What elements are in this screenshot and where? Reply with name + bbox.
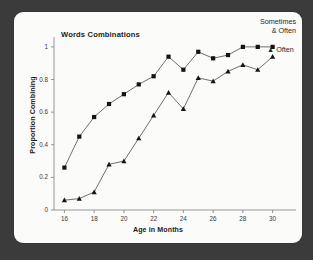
data-point-square [77, 135, 81, 139]
x-tick-label: 18 [84, 215, 104, 222]
data-point-triangle [151, 113, 156, 118]
plot-area [14, 12, 302, 243]
data-point-square [92, 115, 96, 119]
y-tick-label: 0.2 [28, 173, 48, 180]
data-point-square [137, 82, 141, 86]
x-tick-label: 30 [263, 215, 283, 222]
data-point-square [166, 55, 170, 59]
data-point-triangle [240, 62, 245, 67]
data-point-triangle [196, 75, 201, 80]
data-point-square [226, 53, 230, 57]
y-tick-label: 0.8 [28, 76, 48, 83]
series-2 [62, 54, 275, 202]
data-point-triangle [166, 90, 171, 95]
screenshot-root: Words Combinations Sometimes & Often ▲ O… [0, 0, 313, 260]
data-point-square [256, 45, 260, 49]
series-line-2 [64, 57, 272, 201]
data-point-square [122, 92, 126, 96]
chart-panel: Words Combinations Sometimes & Often ▲ O… [14, 12, 302, 243]
data-point-triangle [77, 196, 82, 201]
data-point-triangle [136, 136, 141, 141]
data-point-triangle [92, 189, 97, 194]
data-point-square [152, 74, 156, 78]
y-tick-label: 0.6 [28, 108, 48, 115]
data-point-square [241, 45, 245, 49]
x-tick-label: 22 [144, 215, 164, 222]
x-tick-label: 20 [114, 215, 134, 222]
x-tick-label: 16 [54, 215, 74, 222]
x-tick-label: 24 [173, 215, 193, 222]
data-point-square [196, 50, 200, 54]
y-tick-label: 1 [28, 43, 48, 50]
data-point-square [211, 56, 215, 60]
x-tick-label: 26 [203, 215, 223, 222]
data-point-square [271, 45, 275, 49]
data-point-triangle [270, 54, 275, 59]
y-tick-label: 0 [28, 206, 48, 213]
data-point-triangle [225, 69, 230, 74]
data-point-triangle [121, 158, 126, 163]
y-tick-label: 0.4 [28, 141, 48, 148]
data-point-square [107, 102, 111, 106]
data-point-square [62, 165, 66, 169]
data-point-square [181, 68, 185, 72]
x-tick-label: 28 [233, 215, 253, 222]
